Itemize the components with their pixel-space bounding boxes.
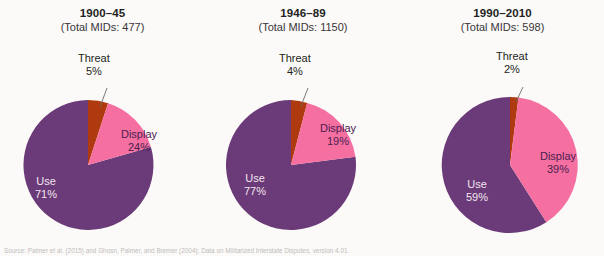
display-label: Display <box>307 122 369 135</box>
display-label: Display <box>108 128 170 141</box>
use-label: Use <box>22 175 70 188</box>
pie-graphic <box>0 0 205 256</box>
display-slice-label: Display 19% <box>307 122 369 148</box>
use-label: Use <box>231 172 279 185</box>
threat-label: Threat <box>496 50 528 63</box>
display-value: 19% <box>307 135 369 148</box>
pie-panel-1946-89: 1946–89 (Total MIDs: 1150) Threat 4% Dis… <box>203 0 403 256</box>
threat-label: Threat <box>279 52 311 65</box>
threat-label: Threat <box>78 52 110 65</box>
threat-value: 5% <box>78 65 110 78</box>
use-value: 59% <box>453 191 501 204</box>
pie-panel-1900-45: 1900–45 (Total MIDs: 477) Threat 5% Disp… <box>0 0 205 256</box>
threat-callout: Threat 4% <box>279 52 311 77</box>
pie-graphic <box>401 0 604 256</box>
threat-callout: Threat 2% <box>496 50 528 75</box>
pie-panel-1990-2010: 1990–2010 (Total MIDs: 598) Threat 2% Di… <box>401 0 604 256</box>
display-label: Display <box>527 150 589 163</box>
source-note: Source: Palmer et al. (2015) and Ghosn, … <box>4 247 600 255</box>
pie-svg <box>0 0 205 256</box>
display-slice-label: Display 39% <box>527 150 589 176</box>
pie-svg <box>401 0 604 256</box>
display-value: 39% <box>527 163 589 176</box>
use-value: 71% <box>22 188 70 201</box>
threat-value: 4% <box>279 65 311 78</box>
use-value: 77% <box>231 185 279 198</box>
threat-value: 2% <box>496 63 528 76</box>
pie-graphic <box>203 0 403 256</box>
display-value: 24% <box>108 141 170 154</box>
threat-callout: Threat 5% <box>78 52 110 77</box>
pie-chart-figure: 1900–45 (Total MIDs: 477) Threat 5% Disp… <box>0 0 604 256</box>
pie-svg <box>203 0 403 256</box>
use-slice-label: Use 71% <box>22 175 70 201</box>
display-slice-label: Display 24% <box>108 128 170 154</box>
use-slice-label: Use 59% <box>453 178 501 204</box>
use-label: Use <box>453 178 501 191</box>
use-slice-label: Use 77% <box>231 172 279 198</box>
